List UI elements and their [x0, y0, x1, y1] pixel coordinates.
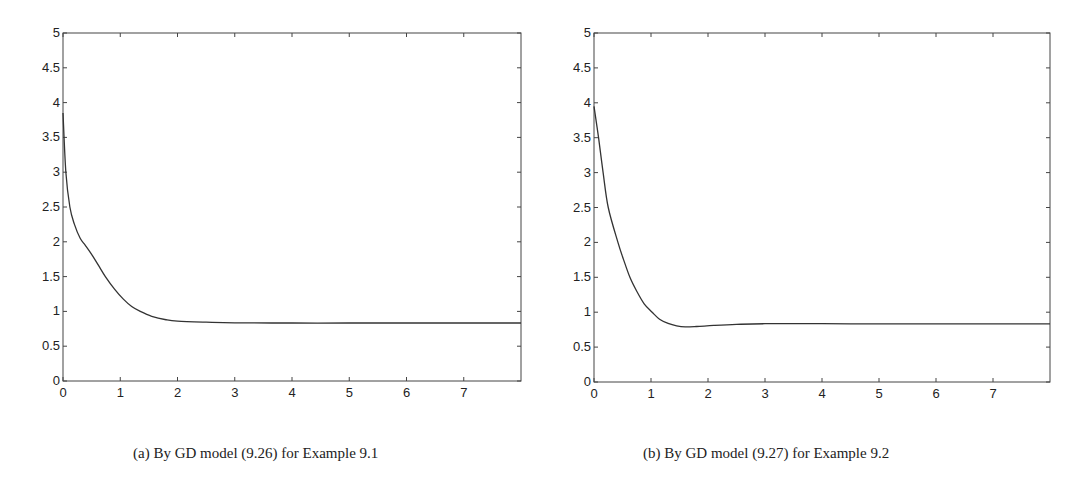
plot-frame: [63, 33, 521, 381]
y-tick-label: 2.5: [42, 199, 60, 214]
x-tick-label: 3: [761, 386, 768, 401]
y-tick-label: 1: [53, 303, 60, 318]
y-tick-label: 0.5: [573, 339, 591, 354]
x-tick-label: 4: [288, 385, 295, 400]
x-tick-label: 2: [174, 385, 181, 400]
chart-panel-b: 00.511.522.533.544.5501234567: [530, 0, 1085, 440]
x-tick-label: 5: [875, 386, 882, 401]
y-tick-label: 4: [584, 95, 591, 110]
plot-frame: [594, 33, 1050, 382]
y-tick-label: 2.5: [573, 200, 591, 215]
y-tick-label: 0.5: [42, 338, 60, 353]
x-tick-label: 6: [932, 386, 939, 401]
x-tick-label: 1: [647, 386, 654, 401]
y-tick-label: 5: [584, 25, 591, 40]
y-tick-label: 5: [53, 25, 60, 40]
x-tick-label: 7: [460, 385, 467, 400]
y-tick-label: 3: [584, 165, 591, 180]
line-chart-b: 00.511.522.533.544.5501234567: [530, 0, 1085, 440]
y-tick-label: 4.5: [573, 60, 591, 75]
y-tick-label: 2: [53, 234, 60, 249]
y-tick-label: 1.5: [42, 269, 60, 284]
data-line: [594, 106, 1050, 327]
x-tick-label: 0: [590, 386, 597, 401]
x-tick-label: 2: [704, 386, 711, 401]
x-tick-label: 7: [989, 386, 996, 401]
y-tick-label: 2: [584, 234, 591, 249]
caption-a: (a) By GD model (9.26) for Example 9.1: [133, 445, 378, 462]
x-tick-label: 0: [59, 385, 66, 400]
y-tick-label: 4.5: [42, 60, 60, 75]
caption-b: (b) By GD model (9.27) for Example 9.2: [643, 445, 889, 462]
y-tick-label: 1.5: [573, 269, 591, 284]
y-tick-label: 3.5: [573, 130, 591, 145]
x-tick-label: 3: [231, 385, 238, 400]
x-tick-label: 6: [403, 385, 410, 400]
x-tick-label: 4: [818, 386, 825, 401]
y-tick-label: 3.5: [42, 129, 60, 144]
chart-panel-a: 00.511.522.533.544.5501234567: [0, 0, 540, 440]
y-tick-label: 3: [53, 164, 60, 179]
data-line: [63, 113, 521, 323]
x-tick-label: 5: [346, 385, 353, 400]
y-tick-label: 1: [584, 304, 591, 319]
x-tick-label: 1: [117, 385, 124, 400]
y-tick-label: 4: [53, 95, 60, 110]
line-chart-a: 00.511.522.533.544.5501234567: [0, 0, 540, 440]
